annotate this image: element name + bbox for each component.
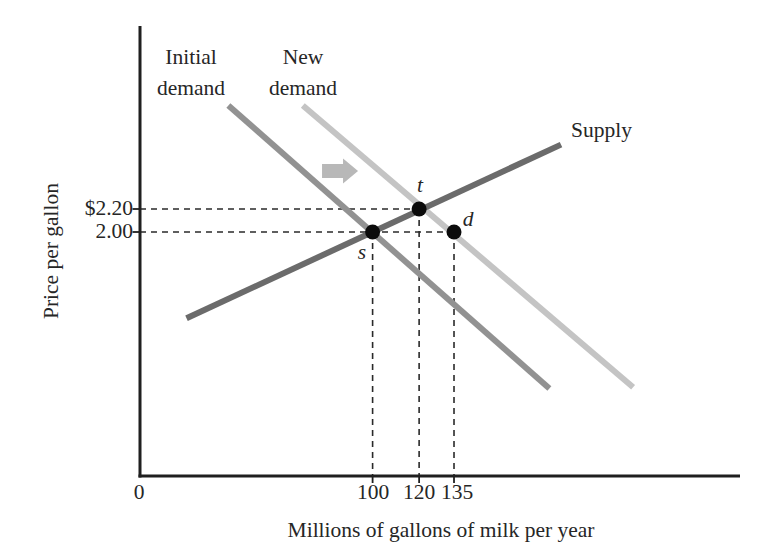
point-t-label: t: [417, 175, 423, 197]
initial-demand-label-line2: demand: [157, 73, 225, 104]
new-demand-label-line2: demand: [269, 73, 337, 104]
chart-canvas: [0, 0, 778, 557]
supply-label: Supply: [571, 120, 632, 142]
point-d-label: d: [463, 209, 474, 231]
x-axis-title: Millions of gallons of milk per year: [288, 520, 595, 542]
new-demand-label-line1: New: [269, 42, 337, 73]
point-s-marker: [365, 225, 380, 240]
point-t-marker: [412, 202, 427, 217]
new-demand-label: New demand: [269, 42, 337, 104]
x-tick-label-135: 135: [441, 482, 473, 504]
point-d-marker: [447, 225, 462, 240]
x-origin-label: 0: [134, 482, 145, 504]
milk-supply-demand-chart: Price per gallon Millions of gallons of …: [0, 0, 778, 557]
point-s-label: s: [358, 242, 366, 264]
initial-demand-curve: [228, 106, 549, 389]
x-tick-label-120: 120: [403, 482, 435, 504]
initial-demand-label: Initial demand: [157, 42, 225, 104]
new-demand-curve: [303, 106, 633, 388]
y-tick-label-2-00: 2.00: [49, 221, 133, 243]
initial-demand-label-line1: Initial: [157, 42, 225, 73]
y-tick-label-2-20: $2.20: [49, 198, 133, 220]
x-tick-label-100: 100: [357, 482, 389, 504]
demand-shift-arrow: [322, 159, 358, 184]
